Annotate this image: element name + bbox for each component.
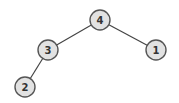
node-label: 1: [153, 45, 160, 56]
node-label: 3: [45, 45, 52, 56]
node-label: 4: [97, 15, 104, 26]
node-label: 2: [22, 82, 29, 93]
tree-node-4: 4: [90, 10, 110, 30]
tree-node-2: 2: [15, 77, 35, 97]
tree-node-1: 1: [146, 40, 166, 60]
tree-diagram: 4 3 1 2: [0, 0, 179, 103]
tree-node-3: 3: [38, 40, 58, 60]
